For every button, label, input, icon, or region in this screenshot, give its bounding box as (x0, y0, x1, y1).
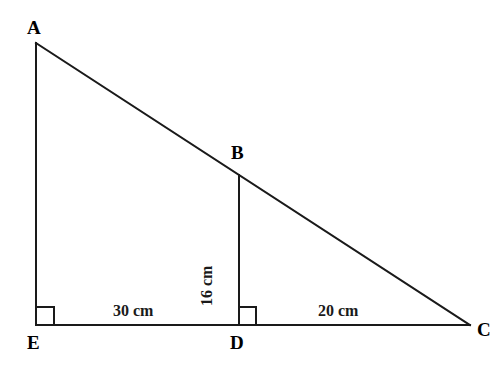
right-angle-e (36, 307, 54, 325)
vertex-label-b: B (231, 143, 244, 162)
measure-label-dc: 20 cm (318, 303, 358, 319)
figure-svg (0, 0, 502, 367)
measure-label-ed: 30 cm (113, 303, 153, 319)
segments-group (36, 43, 470, 325)
segment-ac (36, 43, 470, 325)
geometry-diagram: A B C D E 30 cm 20 cm 16 cm (0, 0, 502, 367)
vertex-label-e: E (27, 333, 40, 352)
vertex-label-d: D (230, 333, 244, 352)
measure-label-bd: 16 cm (199, 266, 215, 306)
vertex-label-a: A (27, 18, 41, 37)
vertex-label-c: C (477, 320, 491, 339)
right-angle-d (238, 307, 256, 325)
